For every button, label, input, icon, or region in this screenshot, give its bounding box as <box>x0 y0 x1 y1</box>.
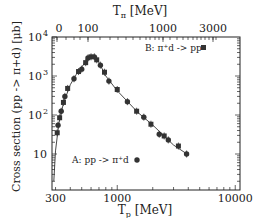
x-axis-label: Tp [MeV] <box>118 203 172 218</box>
y-tick-exponent: 4 <box>43 29 48 38</box>
legend-marker-square <box>201 45 206 50</box>
y-tick-exponent: 3 <box>43 68 48 77</box>
x2-tick-label: 100 <box>78 22 99 35</box>
legend-marker-circle <box>134 157 139 162</box>
x2-tick-label: 1000 <box>149 22 177 35</box>
x-tick-label: 300 <box>45 192 66 205</box>
y-tick-exponent: 2 <box>43 107 48 116</box>
y-tick-label: 10 <box>28 31 42 44</box>
x2-axis-label: Tπ [MeV] <box>113 4 168 20</box>
y-tick-label: 10 <box>28 109 42 122</box>
x2-tick-label: 3000 <box>199 22 227 35</box>
chart: 10102103104300100010000Tp [MeV]010010003… <box>0 0 266 218</box>
x2-tick-label: 0 <box>56 22 63 35</box>
y-axis-label: Cross section (pp -> π+d) [μb] <box>10 17 23 197</box>
x-tick-label: 10000 <box>218 192 253 205</box>
plot-frame <box>52 37 240 190</box>
y-tick-label: 10 <box>33 148 47 161</box>
y-tick-label: 10 <box>28 70 42 83</box>
legend-label-a: A: pp -> π⁺d <box>71 155 129 165</box>
legend-label-b: B: π⁺d -> pp <box>145 43 202 53</box>
